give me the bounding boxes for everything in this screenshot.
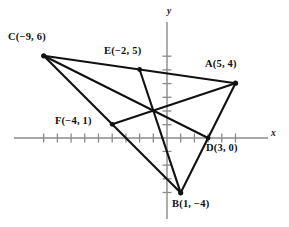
point-D <box>206 136 211 141</box>
point-label-A: A(5, 4) <box>205 58 237 69</box>
point-label-D: D(3, 0) <box>206 142 238 153</box>
point-label-C: C(−9, 6) <box>8 31 46 42</box>
point-B <box>178 190 183 195</box>
point-F <box>110 122 115 127</box>
point-C <box>41 53 46 58</box>
point-E <box>137 67 142 72</box>
point-label-E: E(−2, 5) <box>104 45 141 56</box>
point-A <box>233 81 238 86</box>
y-axis-label: y <box>167 6 171 16</box>
x-axis-label: x <box>271 128 276 138</box>
coordinate-geometry-figure: C(−9, 6) E(−2, 5) A(5, 4) F(−4, 1) D(3, … <box>0 0 289 227</box>
point-label-B: B(1, −4) <box>172 198 209 209</box>
point-label-F: F(−4, 1) <box>55 115 92 126</box>
segment-median-BE <box>140 70 181 193</box>
